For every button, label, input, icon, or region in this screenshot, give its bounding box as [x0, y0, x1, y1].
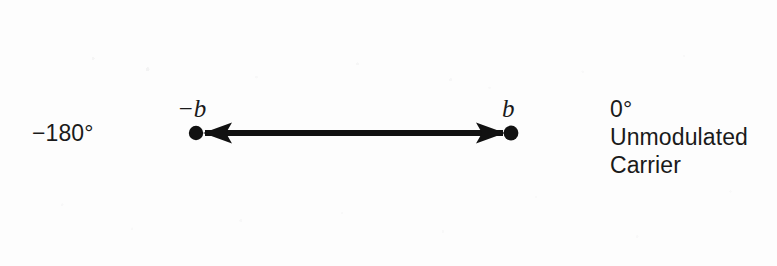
- left-phase-label: −180°: [32, 122, 94, 145]
- positive-point-marker: [504, 126, 519, 141]
- negative-point-label: −b: [177, 96, 206, 121]
- carrier-caption-line: Carrier: [610, 154, 681, 177]
- unmodulated-caption-line: Unmodulated: [610, 126, 748, 149]
- phasor-diagram-figure: −180° −b b 0° Unmodulated Carrier: [0, 0, 777, 266]
- negative-point-marker: [189, 126, 203, 140]
- right-phase-label: 0°: [610, 98, 632, 121]
- positive-point-label: b: [502, 96, 515, 121]
